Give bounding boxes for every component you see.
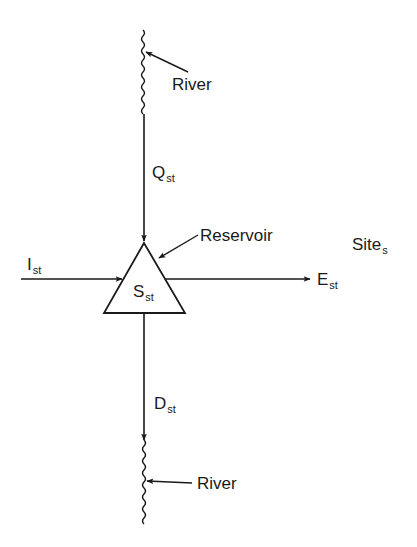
- reservoir-label: Reservoir: [200, 227, 273, 244]
- site-label: Sites: [352, 236, 388, 256]
- lateral-inflow-i-label: Ist: [27, 256, 41, 276]
- release-d-label: Dst: [154, 395, 176, 415]
- upstream-river-line: [142, 30, 145, 114]
- downstream-river-label: River: [197, 475, 237, 492]
- downstream-river-line: [143, 440, 146, 524]
- storage-s-label: Sst: [133, 283, 154, 303]
- downstream-river-pointer: [147, 481, 192, 483]
- reservoir-pointer: [159, 235, 198, 258]
- evaporation-e-label: Est: [317, 271, 338, 291]
- upstream-river-pointer: [146, 52, 188, 72]
- upstream-river-label: River: [172, 76, 212, 93]
- inflow-q-label: Qst: [152, 164, 175, 184]
